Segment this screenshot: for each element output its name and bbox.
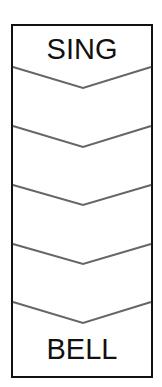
chevron-4 [13,244,151,264]
bottom-label: BELL [13,335,151,364]
chevron-1 [13,67,151,88]
top-label: SING [13,35,151,64]
chevron-2 [13,126,151,147]
chevron-5 [13,302,151,323]
chevron-3 [13,185,151,205]
chevron-sequence-diagram: SING BELL [0,0,162,387]
